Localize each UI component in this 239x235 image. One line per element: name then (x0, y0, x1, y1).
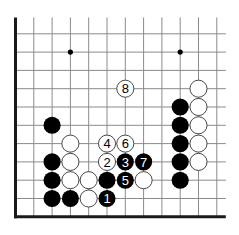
white-stone-icon (190, 98, 207, 115)
white-stone-icon (62, 172, 79, 189)
black-stone (172, 172, 189, 189)
move-number: 3 (122, 155, 129, 170)
white-stone (80, 172, 97, 189)
black-stone-icon (44, 190, 61, 207)
white-stone-icon (135, 172, 152, 189)
black-stone (44, 190, 61, 207)
white-stone-icon (62, 153, 79, 170)
black-stone-icon (44, 153, 61, 170)
white-stone-icon (80, 172, 97, 189)
white-stone-icon (190, 80, 207, 97)
move-number: 8 (122, 81, 129, 96)
white-stone (190, 117, 207, 134)
stone-move-4: 4 (98, 135, 115, 152)
go-board: 12345678 (0, 0, 239, 235)
white-stone-icon (190, 117, 207, 134)
black-stone-icon (44, 117, 61, 134)
black-stone-icon (62, 190, 79, 207)
stone-move-3: 3 (117, 153, 134, 170)
black-stone (98, 172, 115, 189)
white-stone (62, 153, 79, 170)
stone-move-2: 2 (98, 153, 115, 170)
black-stone-icon (172, 135, 189, 152)
move-number: 7 (140, 155, 147, 170)
white-stone-icon (190, 135, 207, 152)
black-stone-icon (172, 117, 189, 134)
white-stone (62, 172, 79, 189)
white-stone-icon (190, 153, 207, 170)
stone-move-8: 8 (117, 80, 134, 97)
black-stone (172, 153, 189, 170)
black-stone-icon (172, 172, 189, 189)
move-number: 6 (122, 136, 129, 151)
black-stone-icon (44, 172, 61, 189)
stone-move-1: 1 (98, 190, 115, 207)
black-stone (62, 190, 79, 207)
black-stone (172, 117, 189, 134)
white-stone (135, 172, 152, 189)
black-stone (44, 172, 61, 189)
move-number: 2 (103, 155, 110, 170)
white-stone (80, 190, 97, 207)
black-stone (172, 98, 189, 115)
hoshi-point-icon (68, 50, 73, 55)
stone-move-6: 6 (117, 135, 134, 152)
stone-move-5: 5 (117, 172, 134, 189)
white-stone (62, 135, 79, 152)
move-number: 1 (103, 191, 110, 206)
white-stone (190, 153, 207, 170)
black-stone (44, 153, 61, 170)
move-number: 5 (122, 173, 129, 188)
black-stone (172, 135, 189, 152)
hoshi-point-icon (178, 50, 183, 55)
black-stone (44, 117, 61, 134)
white-stone-icon (80, 190, 97, 207)
white-stone (190, 98, 207, 115)
move-number: 4 (103, 136, 110, 151)
stone-move-7: 7 (135, 153, 152, 170)
black-stone-icon (172, 153, 189, 170)
black-stone-icon (98, 172, 115, 189)
white-stone-icon (62, 135, 79, 152)
white-stone (190, 80, 207, 97)
black-stone-icon (172, 98, 189, 115)
white-stone (190, 135, 207, 152)
